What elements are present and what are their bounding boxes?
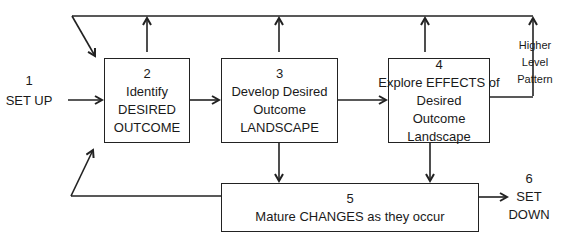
step-text-line: Explore EFFECTS of: [378, 74, 499, 92]
higher-level-pattern-label: Higher Level Pattern: [510, 37, 560, 88]
step-number: 5: [346, 190, 353, 208]
bottom-feedback-arrow: [71, 150, 93, 196]
step-number: 3: [276, 65, 283, 83]
start-number: 1: [0, 72, 58, 90]
top-bus-to-box2-arrow: [72, 16, 95, 56]
step-text-line: LANDSCAPE: [240, 119, 319, 137]
step-text-line: Desired Outcome: [389, 92, 489, 128]
step-text-line: Outcome: [253, 101, 306, 119]
start-text: SET UP: [0, 92, 58, 110]
step-number: 4: [435, 56, 442, 74]
step-box-identify-outcome: 2 Identify DESIRED OUTCOME: [104, 58, 190, 143]
step-text-line: Develop Desired: [231, 83, 327, 101]
step-text-line: Landscape: [407, 128, 471, 146]
higher-level-line: Pattern: [510, 71, 560, 88]
start-label: 1 SET UP: [0, 72, 58, 110]
step-box-explore-effects: 4 Explore EFFECTS of Desired Outcome Lan…: [388, 58, 490, 143]
end-text-line: DOWN: [504, 206, 554, 224]
step-text-line: OUTCOME: [114, 119, 180, 137]
end-label: 6 SET DOWN: [504, 170, 554, 224]
step-number: 2: [143, 65, 150, 83]
step-box-mature-changes: 5 Mature CHANGES as they occur: [221, 183, 479, 232]
end-text-line: SET: [504, 188, 554, 206]
step-text-line: DESIRED: [118, 101, 176, 119]
step-text-line: Mature CHANGES as they occur: [255, 208, 444, 226]
end-number: 6: [504, 170, 554, 188]
step-text-line: Identify: [126, 83, 168, 101]
step-box-develop-landscape: 3 Develop Desired Outcome LANDSCAPE: [221, 58, 338, 143]
higher-level-line: Higher: [510, 37, 560, 54]
higher-level-line: Level: [510, 54, 560, 71]
